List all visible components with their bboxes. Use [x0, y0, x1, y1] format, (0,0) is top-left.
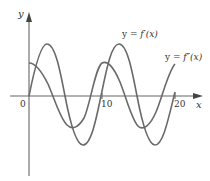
- label-f-prime-prefix: y =: [121, 29, 140, 39]
- label-f-prime-fn: f′(x): [139, 29, 158, 39]
- label-f-double-prime: y = f″(x): [164, 52, 203, 62]
- y-axis-label: y: [17, 8, 24, 19]
- tick-label-10: 10: [101, 99, 113, 109]
- label-f-double-prime-fn: f″(x): [182, 52, 202, 62]
- y-axis-arrow-icon: [26, 12, 32, 22]
- tick-label-20: 20: [174, 99, 186, 109]
- curve-f-prime: [29, 44, 175, 145]
- label-f-double-prime-prefix: y =: [164, 52, 183, 62]
- label-f-prime: y = f′(x): [121, 29, 158, 39]
- origin-label: 0: [20, 99, 26, 109]
- x-axis-label: x: [196, 99, 202, 110]
- derivative-graph: y x 0 10 20 y = f′(x) y = f″(x): [0, 0, 210, 181]
